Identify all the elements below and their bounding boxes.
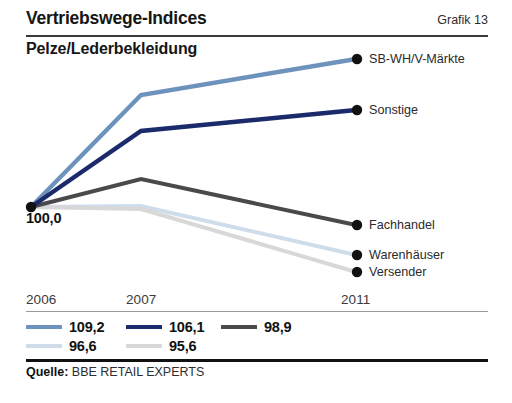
legend-value-warenhaeuser: 96,6 xyxy=(69,338,96,354)
legend-item-109-2: 109,2 xyxy=(26,319,126,335)
legend-value-sb-wh-v-maerkte: 109,2 xyxy=(69,319,104,335)
axis-line xyxy=(26,311,488,312)
page-title: Vertriebswege-Indices xyxy=(26,8,207,29)
figure-number: Grafik 13 xyxy=(437,13,488,27)
axis-tick-2006: 2006 xyxy=(26,292,56,307)
header-divider xyxy=(26,35,488,37)
endpoint-marker-sonstige xyxy=(352,105,362,115)
axis-tick-2007: 2007 xyxy=(126,292,156,307)
series-label-sonstige: Sonstige xyxy=(369,103,418,117)
legend-value-versender: 95,6 xyxy=(169,338,196,354)
chart-page: Vertriebswege-Indices Grafik 13 Pelze/Le… xyxy=(0,0,512,403)
legend-value-fachhandel: 98,9 xyxy=(264,319,291,335)
legend-item-106-1: 106,1 xyxy=(126,319,221,335)
legend-swatch-fachhandel xyxy=(221,325,257,329)
legend-swatch-sonstige xyxy=(126,325,162,329)
series-line-sb-wh-v-maerkte xyxy=(31,59,356,207)
footer-divider xyxy=(26,359,488,362)
legend-swatch-versender xyxy=(126,344,162,348)
endpoint-marker-versender xyxy=(352,267,362,277)
series-label-versender: Versender xyxy=(369,265,426,279)
legend-value-sonstige: 106,1 xyxy=(169,319,204,335)
source-value: BBE RETAIL EXPERTS xyxy=(72,365,204,379)
legend-row-1: 109,2 106,1 98,9 xyxy=(26,317,488,336)
legend-item-95-6: 95,6 xyxy=(126,338,221,354)
legend-swatch-warenhaeuser xyxy=(26,344,62,348)
origin-value-label: 100,0 xyxy=(26,210,61,226)
legend-item-98-9: 98,9 xyxy=(221,319,291,335)
endpoint-marker-fachhandel xyxy=(352,220,362,230)
series-label-sb-wh-v-maerkte: SB-WH/V-Märkte xyxy=(369,52,465,66)
series-label-warenhaeuser: Warenhäuser xyxy=(369,248,444,262)
legend-swatch-sb-wh-v-maerkte xyxy=(26,325,62,329)
chart-legend: 109,2 106,1 98,9 96,6 95,6 xyxy=(26,317,488,355)
endpoint-marker-sb-wh-v-maerkte xyxy=(352,54,362,64)
axis-tick-2011: 2011 xyxy=(341,292,370,307)
source-label: Quelle: xyxy=(26,365,68,379)
legend-row-2: 96,6 95,6 xyxy=(26,336,488,355)
endpoint-marker-warenhaeuser xyxy=(352,250,362,260)
chart-header: Vertriebswege-Indices Grafik 13 xyxy=(26,8,488,32)
legend-item-96-6: 96,6 xyxy=(26,338,126,354)
source-line: Quelle: BBE RETAIL EXPERTS xyxy=(26,365,204,379)
series-label-fachhandel: Fachhandel xyxy=(369,218,435,232)
